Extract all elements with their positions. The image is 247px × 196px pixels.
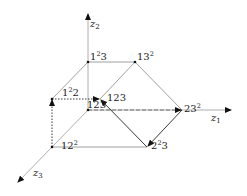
z2-axis-label: z2 bbox=[89, 18, 100, 31]
label-1sq2: 122 bbox=[62, 86, 79, 98]
label-2sq3: 223 bbox=[151, 139, 168, 151]
label-123-upper: 123 bbox=[107, 92, 126, 103]
dot-13sq bbox=[134, 61, 137, 64]
z3-axis-label: z3 bbox=[32, 167, 43, 180]
edge-2sq3-123 bbox=[101, 100, 147, 147]
label-1sq3: 123 bbox=[90, 50, 107, 62]
label-23sq: 232 bbox=[184, 102, 201, 114]
monomial-lattice-diagram: z2 z1 z3 123 132 122 123 123 232 122 223 bbox=[0, 0, 247, 196]
label-12sq: 122 bbox=[61, 139, 78, 151]
dot-1sq3 bbox=[87, 61, 90, 64]
label-123-origin: 123 bbox=[87, 99, 106, 110]
dot-12sq bbox=[51, 146, 54, 149]
label-13sq: 132 bbox=[137, 50, 154, 62]
dot-1sq2 bbox=[51, 98, 54, 101]
edge-13sq-23sq bbox=[135, 62, 182, 110]
solid-edges bbox=[52, 62, 182, 147]
z1-axis-label: z1 bbox=[210, 112, 221, 125]
